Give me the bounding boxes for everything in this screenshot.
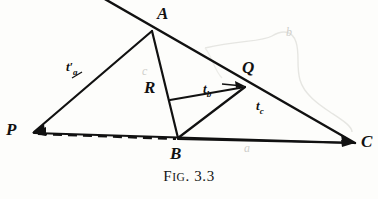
pencil-mark-c: c [142, 64, 147, 79]
figure-3-3: A P B C Q R t′a tb tc c a b FIG. 3.3 [0, 0, 378, 199]
tb-subscript: b [207, 89, 212, 99]
line-through-A-to-C [103, 0, 355, 143]
figure-caption: FIG. 3.3 [0, 168, 378, 185]
vertex-label-C: C [361, 133, 372, 150]
tc-subscript: c [260, 106, 264, 116]
pencil-outline-curve [205, 32, 352, 132]
edge-B-Q [178, 87, 245, 138]
vertex-label-R: R [144, 79, 155, 96]
pencil-mark-a: a [244, 141, 250, 156]
vertex-label-A: A [157, 5, 168, 22]
pencil-mark-b: b [286, 25, 292, 40]
caption-prefix: F [163, 168, 172, 184]
segment-label-tb: tb [203, 82, 211, 99]
caption-suffix: . 3.3 [186, 168, 215, 184]
ta-subscript: a [73, 67, 78, 77]
segment-label-tc: tc [256, 99, 264, 116]
edge-P-A [34, 31, 152, 132]
segment-label-ta-prime: t′a [66, 60, 78, 77]
vertex-label-Q: Q [242, 59, 254, 76]
vertex-label-B: B [170, 145, 181, 162]
vertex-label-P: P [6, 121, 16, 138]
pencil-outline-tail [205, 48, 222, 78]
edge-A-B [152, 31, 178, 138]
caption-smallcaps: IG [172, 171, 185, 183]
